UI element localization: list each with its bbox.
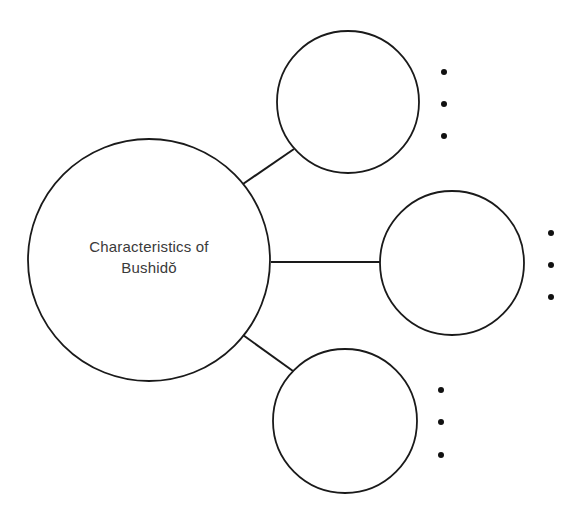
center-label-line2: Bushidŏ: [29, 257, 269, 278]
bullet-icon: [548, 262, 554, 268]
bullet-icon: [548, 294, 554, 300]
connector-top: [243, 149, 294, 184]
branch-bubble-bottom[interactable]: [273, 349, 417, 493]
center-label-line1: Characteristics of: [29, 236, 269, 257]
connector-bottom: [243, 335, 293, 371]
bullet-list-middle: [548, 230, 554, 300]
bullet-list-bottom: [438, 387, 444, 458]
bullet-icon: [438, 387, 444, 393]
bullet-icon: [441, 69, 447, 75]
branch-bubble-top[interactable]: [277, 31, 419, 173]
center-bubble-label: Characteristics of Bushidŏ: [29, 236, 269, 278]
bullet-list-top: [441, 69, 447, 139]
bullet-icon: [438, 419, 444, 425]
bullet-icon: [438, 452, 444, 458]
bullet-icon: [441, 101, 447, 107]
bullet-icon: [441, 133, 447, 139]
bullet-icon: [548, 230, 554, 236]
branch-bubble-middle[interactable]: [380, 191, 524, 335]
